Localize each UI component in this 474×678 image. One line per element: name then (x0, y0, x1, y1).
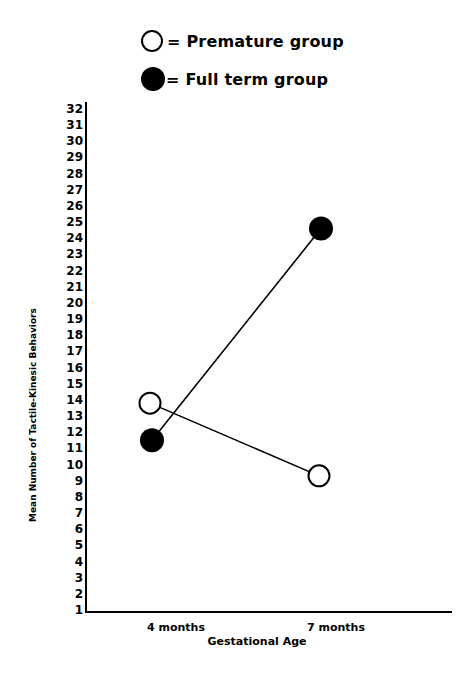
series-line-fullterm (152, 229, 321, 441)
open-circle-marker (140, 393, 161, 414)
x-axis-label: Gestational Age (207, 635, 306, 648)
filled-circle-marker (140, 428, 164, 452)
filled-circle-marker (309, 217, 333, 241)
open-circle-marker (309, 465, 330, 486)
x-tick-7-months: 7 months (307, 621, 365, 634)
x-tick-4-months: 4 months (147, 621, 205, 634)
plot-area (0, 0, 474, 678)
series-line-premature (150, 403, 319, 476)
